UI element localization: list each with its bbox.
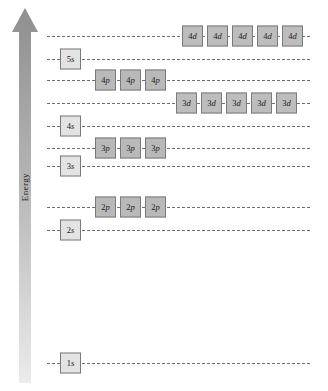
level-line-4p [47, 80, 310, 81]
orbital-box-3d-3[interactable]: 3d [226, 93, 247, 114]
level-line-3s [47, 166, 310, 167]
orbital-group-4p: 4p4p4p [95, 70, 166, 91]
orbital-subshell-letter: d [293, 32, 297, 41]
orbital-box-4p-3[interactable]: 4p [145, 70, 166, 91]
orbital-box-2s-1[interactable]: 2s [60, 220, 81, 241]
orbital-box-4d-1[interactable]: 4d [182, 26, 203, 47]
orbital-group-1s: 1s [60, 353, 81, 374]
level-line-5s [47, 59, 310, 60]
orbital-box-3p-2[interactable]: 3p [120, 138, 141, 159]
orbital-subshell-letter: d [212, 99, 216, 108]
orbital-subshell-letter: p [106, 203, 110, 212]
orbital-subshell-letter: p [131, 76, 135, 85]
energy-level-diagram: Energy 4d4d4d4d4d5s4p4p4p3d3d3d3d3d4s3p3… [0, 0, 328, 391]
orbital-subshell-letter: s [71, 55, 74, 64]
orbital-box-3d-1[interactable]: 3d [176, 93, 197, 114]
orbital-box-3s-1[interactable]: 3s [60, 156, 81, 177]
orbital-box-4d-3[interactable]: 4d [232, 26, 253, 47]
level-line-1s [47, 363, 310, 364]
orbital-subshell-letter: d [193, 32, 197, 41]
orbital-group-3p: 3p3p3p [95, 138, 166, 159]
level-line-2p [47, 207, 310, 208]
orbital-box-4p-2[interactable]: 4p [120, 70, 141, 91]
orbital-box-3p-1[interactable]: 3p [95, 138, 116, 159]
orbital-subshell-letter: p [131, 144, 135, 153]
level-line-4s [47, 126, 310, 127]
orbital-box-4d-2[interactable]: 4d [207, 26, 228, 47]
orbital-subshell-letter: s [71, 122, 74, 131]
orbital-box-5s-1[interactable]: 5s [60, 49, 81, 70]
orbital-group-4s: 4s [60, 116, 81, 137]
orbital-subshell-letter: s [71, 359, 74, 368]
energy-axis-arrow [10, 8, 40, 383]
orbital-box-1s-1[interactable]: 1s [60, 353, 81, 374]
orbital-box-3p-3[interactable]: 3p [145, 138, 166, 159]
orbital-box-3d-4[interactable]: 3d [251, 93, 272, 114]
orbital-subshell-letter: d [218, 32, 222, 41]
orbital-box-4d-4[interactable]: 4d [257, 26, 278, 47]
orbital-subshell-letter: d [287, 99, 291, 108]
orbital-subshell-letter: p [156, 144, 160, 153]
orbital-group-4d: 4d4d4d4d4d [182, 26, 303, 47]
orbital-subshell-letter: d [262, 99, 266, 108]
orbital-subshell-letter: s [71, 162, 74, 171]
orbital-subshell-letter: p [156, 76, 160, 85]
orbital-box-3d-5[interactable]: 3d [276, 93, 297, 114]
orbital-subshell-letter: p [106, 144, 110, 153]
orbital-box-4p-1[interactable]: 4p [95, 70, 116, 91]
orbital-group-2p: 2p2p2p [95, 197, 166, 218]
orbital-group-3d: 3d3d3d3d3d [176, 93, 297, 114]
orbital-box-2p-1[interactable]: 2p [95, 197, 116, 218]
orbital-subshell-letter: p [106, 76, 110, 85]
orbital-subshell-letter: d [243, 32, 247, 41]
energy-arrow-icon [10, 8, 40, 383]
orbital-box-4s-1[interactable]: 4s [60, 116, 81, 137]
orbital-subshell-letter: d [237, 99, 241, 108]
orbital-subshell-letter: p [156, 203, 160, 212]
orbital-group-2s: 2s [60, 220, 81, 241]
orbital-box-2p-3[interactable]: 2p [145, 197, 166, 218]
level-line-2s [47, 230, 310, 231]
orbital-box-4d-5[interactable]: 4d [282, 26, 303, 47]
orbital-subshell-letter: d [187, 99, 191, 108]
orbital-subshell-letter: d [268, 32, 272, 41]
orbital-subshell-letter: p [131, 203, 135, 212]
level-line-3p [47, 148, 310, 149]
orbital-group-3s: 3s [60, 156, 81, 177]
orbital-group-5s: 5s [60, 49, 81, 70]
orbital-box-2p-2[interactable]: 2p [120, 197, 141, 218]
orbital-subshell-letter: s [71, 226, 74, 235]
orbital-box-3d-2[interactable]: 3d [201, 93, 222, 114]
